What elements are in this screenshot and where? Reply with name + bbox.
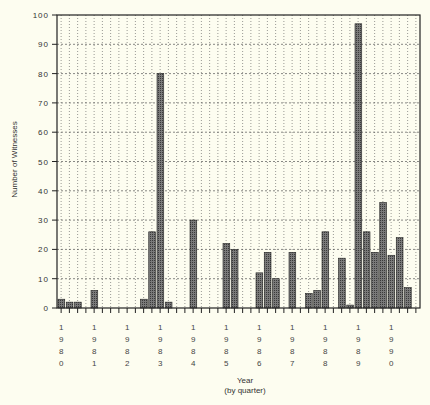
svg-text:1: 1 bbox=[356, 323, 361, 332]
svg-text:1: 1 bbox=[125, 323, 130, 332]
y-tick-label: 30 bbox=[38, 216, 49, 225]
x-year-label: 1988 bbox=[323, 323, 328, 368]
y-tick-label: 100 bbox=[33, 11, 49, 20]
svg-text:8: 8 bbox=[323, 347, 328, 356]
svg-text:9: 9 bbox=[92, 335, 97, 344]
bar bbox=[264, 252, 271, 308]
svg-text:8: 8 bbox=[257, 347, 262, 356]
svg-text:1: 1 bbox=[224, 323, 229, 332]
svg-text:9: 9 bbox=[125, 335, 130, 344]
bar bbox=[149, 232, 156, 308]
svg-text:8: 8 bbox=[191, 347, 196, 356]
y-axis-ticks: 0102030405060708090100 bbox=[33, 11, 57, 313]
svg-text:9: 9 bbox=[158, 335, 163, 344]
bar bbox=[157, 74, 164, 308]
x-year-label: 1990 bbox=[389, 323, 394, 368]
bar bbox=[339, 258, 346, 308]
bar bbox=[380, 203, 387, 308]
svg-text:1: 1 bbox=[59, 323, 64, 332]
bar bbox=[289, 252, 296, 308]
svg-text:8: 8 bbox=[59, 347, 64, 356]
bar bbox=[314, 290, 321, 308]
svg-text:8: 8 bbox=[290, 347, 295, 356]
x-year-label: 1989 bbox=[356, 323, 361, 368]
bar bbox=[58, 299, 65, 308]
svg-text:1: 1 bbox=[389, 323, 394, 332]
bar bbox=[388, 255, 395, 308]
svg-text:4: 4 bbox=[191, 359, 196, 368]
svg-text:0: 0 bbox=[59, 359, 64, 368]
bar bbox=[256, 273, 263, 308]
svg-text:0: 0 bbox=[389, 359, 394, 368]
x-year-label: 1986 bbox=[257, 323, 262, 368]
svg-text:1: 1 bbox=[257, 323, 262, 332]
bar bbox=[306, 293, 313, 308]
svg-text:9: 9 bbox=[290, 335, 295, 344]
svg-text:8: 8 bbox=[356, 347, 361, 356]
x-year-label: 1985 bbox=[224, 323, 229, 368]
svg-text:9: 9 bbox=[356, 335, 361, 344]
bar bbox=[91, 290, 98, 308]
svg-text:9: 9 bbox=[224, 335, 229, 344]
bar bbox=[396, 238, 403, 308]
y-tick-label: 90 bbox=[38, 40, 49, 49]
svg-text:6: 6 bbox=[257, 359, 262, 368]
bar bbox=[231, 249, 238, 308]
x-axis-title-main: Year bbox=[190, 376, 300, 386]
svg-text:5: 5 bbox=[224, 359, 229, 368]
bar bbox=[322, 232, 329, 308]
x-axis-title-sub: (by quarter) bbox=[190, 386, 300, 396]
y-axis-title: Number of Witnesses bbox=[10, 110, 19, 210]
bar bbox=[372, 252, 379, 308]
x-year-label: 1982 bbox=[125, 323, 130, 368]
y-tick-label: 70 bbox=[38, 99, 49, 108]
svg-text:9: 9 bbox=[389, 335, 394, 344]
y-tick-label: 0 bbox=[44, 304, 49, 313]
svg-text:3: 3 bbox=[158, 359, 163, 368]
x-axis-ticks: 1980198119821983198419851986198719881989… bbox=[59, 308, 416, 368]
svg-text:9: 9 bbox=[356, 359, 361, 368]
svg-text:1: 1 bbox=[158, 323, 163, 332]
svg-text:1: 1 bbox=[92, 359, 97, 368]
svg-text:8: 8 bbox=[323, 359, 328, 368]
svg-text:8: 8 bbox=[125, 347, 130, 356]
svg-text:1: 1 bbox=[191, 323, 196, 332]
x-year-label: 1980 bbox=[59, 323, 64, 368]
svg-text:9: 9 bbox=[257, 335, 262, 344]
bar bbox=[141, 299, 148, 308]
bar-chart: 0102030405060708090100 19801981198219831… bbox=[0, 0, 430, 405]
x-year-label: 1981 bbox=[92, 323, 97, 368]
svg-text:7: 7 bbox=[290, 359, 295, 368]
bar bbox=[190, 220, 197, 308]
y-tick-label: 80 bbox=[38, 70, 49, 79]
bar bbox=[165, 302, 172, 308]
svg-text:8: 8 bbox=[158, 347, 163, 356]
bar bbox=[223, 244, 230, 308]
y-tick-label: 20 bbox=[38, 245, 49, 254]
bar bbox=[66, 302, 73, 308]
svg-text:9: 9 bbox=[59, 335, 64, 344]
y-tick-label: 40 bbox=[38, 187, 49, 196]
y-tick-label: 50 bbox=[38, 158, 49, 167]
svg-text:9: 9 bbox=[191, 335, 196, 344]
svg-text:1: 1 bbox=[290, 323, 295, 332]
bar bbox=[75, 302, 82, 308]
svg-text:9: 9 bbox=[389, 347, 394, 356]
bar bbox=[273, 279, 280, 308]
x-year-label: 1987 bbox=[290, 323, 295, 368]
y-tick-label: 60 bbox=[38, 128, 49, 137]
y-tick-label: 10 bbox=[38, 275, 49, 284]
x-year-label: 1983 bbox=[158, 323, 163, 368]
svg-text:9: 9 bbox=[323, 335, 328, 344]
bar bbox=[405, 287, 412, 308]
svg-text:8: 8 bbox=[92, 347, 97, 356]
svg-text:1: 1 bbox=[323, 323, 328, 332]
bar bbox=[363, 232, 370, 308]
svg-text:2: 2 bbox=[125, 359, 130, 368]
x-year-label: 1984 bbox=[191, 323, 196, 368]
bar bbox=[355, 24, 362, 308]
svg-text:8: 8 bbox=[224, 347, 229, 356]
x-axis-title: Year (by quarter) bbox=[190, 376, 300, 396]
svg-text:1: 1 bbox=[92, 323, 97, 332]
